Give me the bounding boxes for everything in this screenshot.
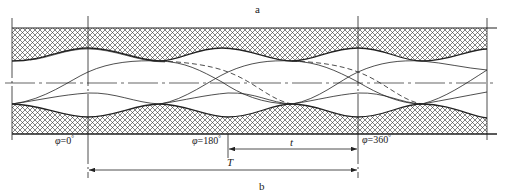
phase-label-360: φ=360°: [362, 133, 391, 145]
falling-curve-2: [292, 61, 422, 104]
falling-curve-3: [422, 61, 487, 70]
figure-label-a: a: [255, 3, 260, 15]
lower-hatched-band: [12, 104, 487, 134]
upper-hatched-band: [12, 28, 487, 61]
mid-curve-4: [422, 92, 487, 104]
rising-curve-3: [292, 61, 422, 104]
rising-curve-4: [422, 70, 487, 104]
cam-profile-diagram: a φ=0° φ=180° φ=360° t T b: [0, 0, 509, 195]
phase-label-180: φ=180°: [192, 134, 221, 146]
rising-curve-2: [160, 61, 292, 104]
figure-label-b: b: [259, 180, 265, 192]
rising-curve-1: [12, 61, 160, 104]
dimension-T-label: T: [227, 156, 234, 168]
phase-label-0: φ=0°: [55, 134, 74, 146]
dimension-t-label: t: [290, 136, 294, 148]
dashed-curve-2: [292, 61, 422, 104]
